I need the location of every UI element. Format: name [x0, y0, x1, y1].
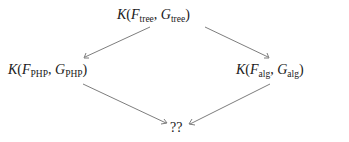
node-left-f: F [22, 62, 31, 77]
node-left: K(FPHP, GPHP) [8, 63, 87, 80]
node-left-f-sub: PHP [31, 69, 48, 79]
node-right-g-sub: alg [287, 69, 299, 79]
node-top: K(Ftree, Gtree) [117, 8, 190, 25]
arrow-top-to-left [84, 27, 150, 58]
node-left-func: K [8, 62, 17, 77]
node-right-f-sub: alg [259, 69, 271, 79]
node-right-f: F [250, 62, 259, 77]
arrow-top-to-right [205, 27, 269, 58]
node-right: K(Falg, Galg) [236, 63, 304, 80]
node-bottom: ?? [170, 121, 182, 135]
node-top-f-sub: tree [140, 14, 154, 24]
node-right-g: G [277, 62, 287, 77]
arrow-left-to-bottom [83, 84, 167, 124]
node-top-g-sub: tree [171, 14, 185, 24]
node-top-f: F [131, 7, 140, 22]
node-right-func: K [236, 62, 245, 77]
node-top-g: G [161, 7, 171, 22]
node-left-g-sub: PHP [65, 69, 82, 79]
arrow-right-to-bottom [189, 84, 270, 125]
node-top-func: K [117, 7, 126, 22]
node-left-g: G [55, 62, 65, 77]
